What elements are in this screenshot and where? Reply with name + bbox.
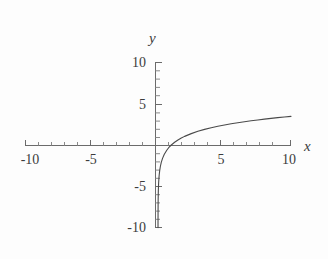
x-tick-label-10: 10 <box>282 153 296 167</box>
x-tick-label-neg10: -10 <box>21 153 40 167</box>
y-tick-label-neg10: -10 <box>106 221 146 235</box>
data-curve <box>158 116 291 227</box>
x-tick-label-neg5: -5 <box>85 153 97 167</box>
plot-canvas <box>0 0 328 259</box>
y-tick-label-10: 10 <box>110 56 146 70</box>
x-axis-title: x <box>304 139 311 154</box>
x-axis-major-ticks <box>26 140 291 146</box>
x-tick-label-5: 5 <box>218 153 225 167</box>
y-axis-title: y <box>149 31 156 46</box>
y-tick-label-neg5: -5 <box>110 180 146 194</box>
y-tick-label-5: 5 <box>110 98 146 112</box>
log-function-plot: y x 10 5 -5 -10 -10 -5 5 10 <box>0 0 328 259</box>
